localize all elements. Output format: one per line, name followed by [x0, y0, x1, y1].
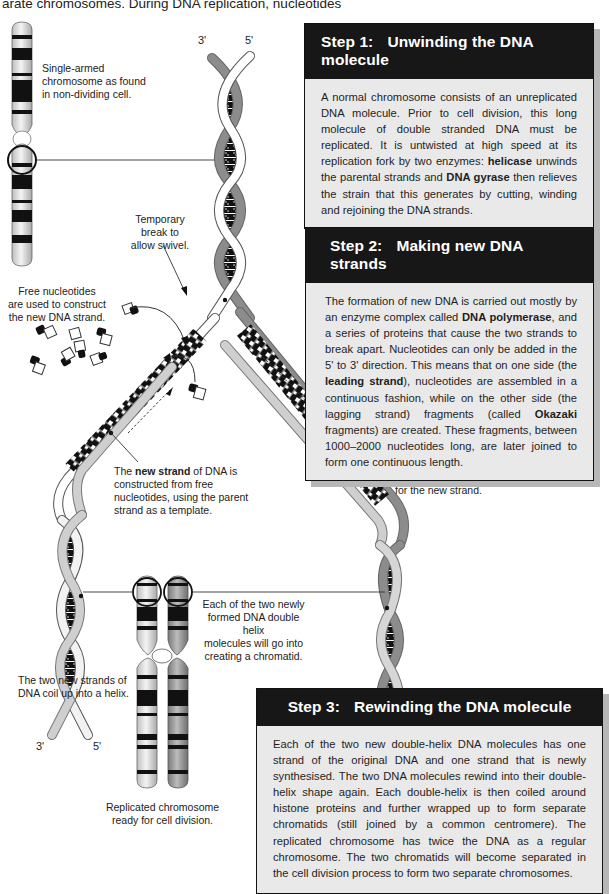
step-2-body: The formation of new DNA is carried out …	[306, 283, 593, 480]
label-single-chromosome: Single-armed chromosome as found in non-…	[42, 62, 146, 101]
step-3-header: Step 3:Rewinding the DNA molecule	[257, 689, 602, 726]
label-3-prime-top: 3'	[198, 34, 206, 46]
step-1-header: Step 1:Unwinding the DNA molecule	[305, 24, 593, 79]
step-1-body: A normal chromosome consists of an unrep…	[305, 79, 593, 228]
step-3-box: Step 3:Rewinding the DNA molecule Each o…	[256, 688, 603, 894]
step-2-box: Step 2:Making new DNA strands The format…	[305, 227, 594, 481]
step-1-box: Step 1:Unwinding the DNA molecule A norm…	[304, 23, 594, 229]
label-new-strand: The new strand of DNA is constructed fro…	[114, 465, 248, 517]
label-5-prime-bottom-left: 5'	[93, 740, 101, 752]
step-3-body: Each of the two new double-helix DNA mol…	[257, 726, 602, 893]
label-replicated-chromosome: Replicated chromosome ready for cell div…	[100, 801, 225, 827]
left-replication-arm	[52, 318, 215, 735]
label-chromatid: Each of the two newly formed DNA double …	[196, 598, 311, 663]
step-2-header: Step 2:Making new DNA strands	[306, 228, 593, 283]
label-3-prime-bottom-left: 3'	[36, 740, 44, 752]
label-5-prime-top: 5'	[245, 34, 253, 46]
parent-double-helix	[212, 56, 250, 318]
label-coil-helix: The two new strands of DNA coil up into …	[18, 674, 129, 700]
label-temporary-break: Temporary break to allow swivel.	[120, 213, 200, 252]
label-free-nucleotides: Free nucleotides are used to construct t…	[2, 285, 112, 324]
